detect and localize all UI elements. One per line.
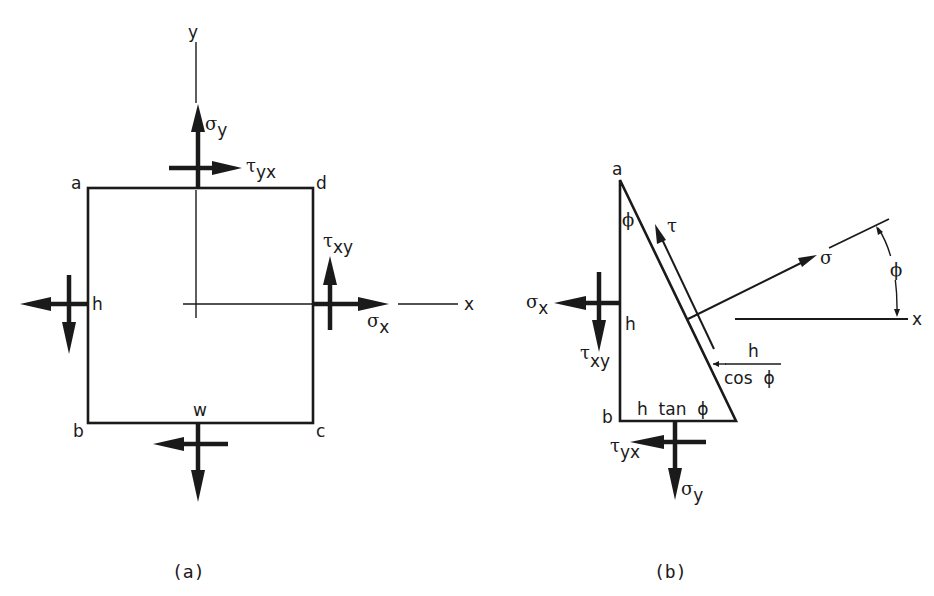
arrowhead-icon [713, 361, 719, 367]
angle-label-phi: ϕ [622, 209, 634, 230]
caption-b: (b) [654, 561, 687, 582]
corner-label-c: c [316, 421, 325, 441]
corner-label-a-b: a [612, 159, 622, 179]
corner-label-d: d [316, 173, 327, 193]
corner-label-b: b [73, 421, 84, 441]
caption-a: (a) [172, 561, 205, 582]
hyp-label-numerator: h [748, 341, 759, 361]
tau-arrow-line [661, 237, 714, 349]
wedge-triangle [620, 180, 736, 421]
arrowhead-icon [592, 320, 606, 352]
arrowhead-icon [894, 309, 900, 317]
arrowhead-icon [798, 255, 817, 267]
width-label-w: w [193, 400, 207, 420]
arrowhead-icon [212, 161, 242, 175]
x-axis-label: x [464, 294, 474, 314]
sigma-label-b: σ [820, 247, 832, 268]
arrowhead-icon [62, 322, 76, 354]
arrowhead-icon [668, 468, 682, 500]
sigma-x-label-a: σx [367, 310, 389, 337]
arrowhead-icon [323, 256, 337, 285]
sigma-y-label-b: σy [681, 478, 703, 505]
x-axis-label-b: x [912, 309, 922, 329]
sigma-normal-arrow [688, 260, 807, 319]
tau-xy-label-b: τxy [580, 342, 610, 371]
corner-label-a: a [71, 173, 81, 193]
y-axis-label: y [188, 22, 198, 42]
arrowhead-icon [655, 224, 666, 244]
corner-label-b-b: b [602, 407, 613, 427]
normal-angle-label: ϕ [890, 259, 902, 280]
arrowhead-icon [191, 104, 205, 132]
height-label-h: h [92, 294, 103, 314]
stress-element-diagram: y x a d b c h w σy τyx τxy σx [0, 0, 934, 596]
side-label-h-tan-phi: h tan ϕ [637, 399, 708, 419]
arrowhead-icon [358, 297, 389, 311]
side-label-h: h [625, 314, 636, 334]
sigma-y-label-a: σy [205, 113, 227, 140]
arrowhead-icon [153, 437, 184, 451]
hyp-label-denominator: cos ϕ [724, 368, 775, 388]
tau-yx-label-b: τyx [610, 435, 640, 462]
panel-a: y x a d b c h w σy τyx τxy σx [20, 22, 474, 582]
element-square [88, 188, 313, 423]
tau-xy-label-a: τxy [323, 230, 353, 257]
tau-yx-label-a: τyx [246, 155, 276, 182]
panel-b: a b ϕ h h tan ϕ h cos ϕ τ σ x ϕ [526, 159, 922, 582]
arrowhead-icon [20, 297, 51, 311]
sigma-x-label-b: σx [526, 291, 548, 318]
arrowhead-icon [554, 296, 586, 310]
tau-label-b: τ [667, 215, 677, 236]
arrowhead-icon [191, 470, 205, 502]
